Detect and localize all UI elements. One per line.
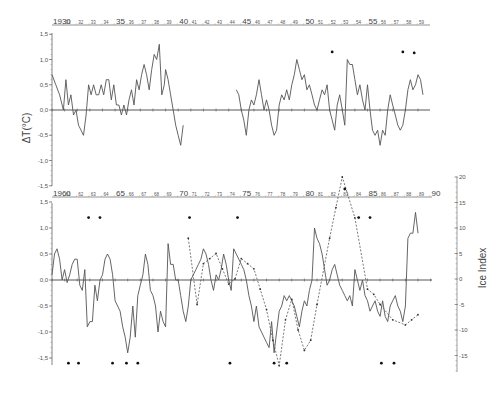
year-separator: , — [126, 192, 127, 197]
ice-tick-label: 15 — [459, 200, 466, 206]
year-label: 58 — [406, 20, 412, 25]
year-separator: , — [379, 20, 380, 25]
ice-tick-label: 10 — [459, 225, 466, 231]
year-label: 31 — [66, 20, 72, 25]
event-dot-marker — [136, 362, 139, 365]
y-tick-label: 0,0 — [40, 277, 49, 283]
year-label: 45 — [242, 17, 251, 26]
year-separator: , — [429, 192, 430, 197]
y-tick-label: 1,0 — [40, 225, 49, 231]
year-label: 64 — [103, 192, 109, 197]
y-tick-label: -1,0 — [38, 158, 49, 164]
temperature-anomaly-line — [52, 212, 418, 352]
y-tick-label: -1,0 — [38, 329, 49, 335]
ice-index-point — [341, 176, 343, 178]
year-label: 53 — [343, 20, 349, 25]
ice-index-point — [367, 288, 369, 290]
year-label: 89 — [419, 192, 425, 197]
year-separator: , — [391, 192, 392, 197]
y-tick-label: -1,5 — [38, 355, 49, 361]
event-dot-marker — [343, 188, 346, 191]
year-separator: , — [202, 20, 203, 25]
year-label: 36 — [129, 20, 135, 25]
year-separator: , — [303, 20, 304, 25]
event-dot-marker — [273, 362, 276, 365]
year-separator: , — [265, 20, 266, 25]
event-dot-marker — [188, 216, 191, 219]
year-label: 62 — [78, 192, 84, 197]
year-label: 88 — [406, 192, 412, 197]
ice-index-point — [373, 293, 375, 295]
ice-index-point — [203, 263, 205, 265]
ice-index-axis-label: Ice Index — [477, 248, 488, 289]
year-label: 69 — [167, 192, 173, 197]
y-tick-label: 0,0 — [40, 107, 49, 113]
ice-tick-label: -10 — [459, 327, 468, 333]
year-separator: , — [126, 20, 127, 25]
ice-index-point — [354, 217, 356, 219]
year-label: 63 — [91, 192, 97, 197]
year-label: 56 — [381, 20, 387, 25]
ice-index-point — [221, 268, 223, 270]
top-panel-1930-1959: 1,51,00,50,0-0,5-1,0-1,5193031,32,33,34,… — [38, 17, 430, 189]
ice-index-point — [253, 268, 255, 270]
year-separator: , — [114, 20, 115, 25]
ice-index-point — [234, 278, 236, 280]
year-label: 70 — [179, 189, 188, 198]
year-separator: , — [404, 20, 405, 25]
year-label: 46 — [255, 20, 261, 25]
year-label: 72 — [204, 192, 210, 197]
year-separator: , — [101, 20, 102, 25]
ice-tick-label: 0 — [459, 276, 463, 282]
year-separator: , — [189, 20, 190, 25]
ice-index-point — [329, 237, 331, 239]
year-label: 39 — [167, 20, 173, 25]
year-separator: , — [177, 192, 178, 197]
event-dot-marker — [125, 362, 128, 365]
year-separator: , — [76, 20, 77, 25]
temperature-anomaly-line — [52, 44, 183, 145]
year-label: 57 — [394, 20, 400, 25]
year-label: 44 — [230, 20, 236, 25]
year-label: 77 — [268, 192, 274, 197]
year-separator: , — [63, 192, 64, 197]
ice-index-point — [209, 258, 211, 260]
year-separator: , — [379, 192, 380, 197]
year-separator: , — [303, 192, 304, 197]
ice-index-point — [215, 253, 217, 255]
ice-tick-label: 5 — [459, 251, 463, 257]
year-separator: , — [139, 20, 140, 25]
year-separator: , — [240, 192, 241, 197]
year-separator: , — [215, 192, 216, 197]
year-label: 80 — [305, 189, 314, 198]
y-tick-label: 1,5 — [40, 31, 49, 37]
ice-index-point — [411, 319, 413, 321]
y-tick-label: 1,0 — [40, 57, 49, 63]
y-tick-label: 0,5 — [40, 251, 49, 257]
ice-index-point — [417, 314, 419, 316]
year-separator: , — [353, 20, 354, 25]
year-separator: , — [227, 20, 228, 25]
delta-t-axis-label: ΔT(°C) — [21, 113, 32, 144]
ice-index-point — [310, 339, 312, 341]
year-label: 47 — [268, 20, 274, 25]
y-tick-label: -0,5 — [38, 132, 49, 138]
year-separator: , — [189, 192, 190, 197]
y-tick-label: -0,5 — [38, 303, 49, 309]
year-label: 76 — [255, 192, 261, 197]
year-label: 65 — [116, 189, 125, 198]
year-separator: , — [366, 20, 367, 25]
ice-index-point — [404, 324, 406, 326]
y-tick-label: 0,5 — [40, 82, 49, 88]
year-separator: , — [76, 192, 77, 197]
year-label: 33 — [91, 20, 97, 25]
year-label: 84 — [356, 192, 362, 197]
year-label: 79 — [293, 192, 299, 197]
event-dot-marker — [87, 216, 90, 219]
year-separator: , — [252, 192, 253, 197]
year-label: 40 — [179, 17, 188, 26]
year-label: 35 — [116, 17, 125, 26]
ice-index-point — [272, 339, 274, 341]
year-label: 34 — [103, 20, 109, 25]
year-label: 71 — [192, 192, 198, 197]
